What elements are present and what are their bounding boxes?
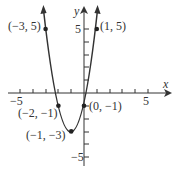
curve-arrow-right-icon	[94, 5, 100, 14]
point-label-1-5: (1, 5)	[100, 19, 126, 33]
point-label-0-neg1: (0, −1)	[89, 99, 122, 113]
point-neg3-5	[43, 27, 48, 32]
x-tick-label-5: 5	[143, 94, 149, 108]
parabola-chart: x −5 5 y 5 −5 (−3, 5) (1,	[0, 0, 176, 171]
point-label-vertex: (−1, −3)	[26, 128, 66, 142]
curve-arrow-left-icon	[40, 5, 46, 14]
point-vertex	[69, 129, 74, 134]
point-label-neg2-neg1: (−2, −1)	[18, 106, 58, 120]
point-0-neg1	[82, 104, 87, 109]
x-axis-label: x	[162, 77, 169, 91]
y-tick-label-5: 5	[75, 22, 81, 36]
y-axis: y 5 −5	[71, 4, 89, 166]
point-label-neg3-5: (−3, 5)	[8, 19, 41, 33]
y-tick-label-neg5: −5	[71, 150, 84, 164]
point-1-5	[95, 27, 100, 32]
y-axis-label: y	[73, 4, 80, 18]
